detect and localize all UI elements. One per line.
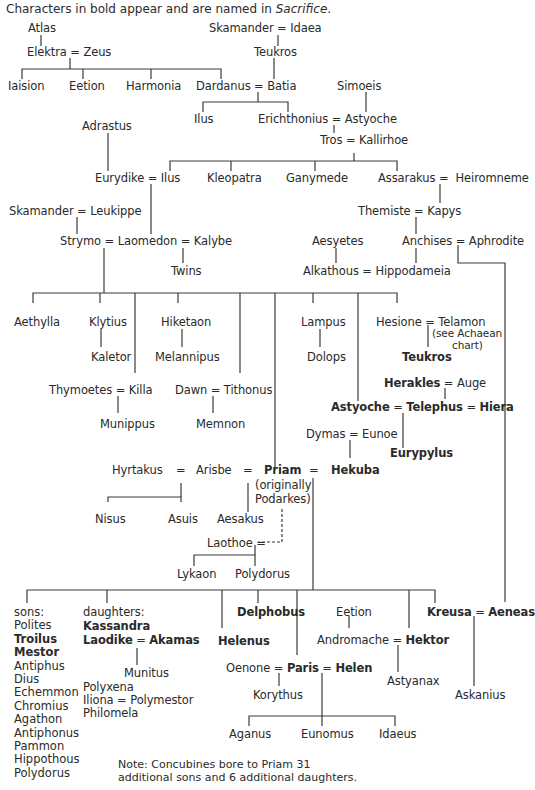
node-kaletor: Kaletor	[91, 351, 131, 364]
node-delphobus: Delphobus	[237, 606, 305, 619]
node-astyoche-telephus-hiera: Astyoche = Telephus = Hiera	[331, 401, 514, 414]
node-arisbe: Arisbe	[196, 464, 232, 477]
daughter-kassandra: Kassandra	[83, 620, 150, 633]
son-hippothous: Hippothous	[14, 753, 80, 766]
node-eurydike-ilus: Eurydike = Ilus	[95, 172, 180, 185]
node-dawn-tithonus: Dawn = Tithonus	[175, 384, 272, 397]
see-achaean-note-1: (see Achaean	[432, 327, 502, 339]
node-hiketaon: Hiketaon	[161, 316, 211, 329]
eq-arisbe-priam: =	[243, 464, 253, 477]
node-skamander-idaea: Skamander = Idaea	[209, 22, 322, 35]
node-hekuba: Hekuba	[331, 464, 380, 477]
priam-original-name-2: Podarkes)	[255, 493, 311, 506]
node-aganus: Aganus	[229, 728, 271, 741]
son-antiphonus: Antiphonus	[14, 727, 80, 740]
node-askanius: Askanius	[455, 689, 505, 702]
node-munippus: Munippus	[100, 418, 155, 431]
node-astyanax: Astyanax	[387, 675, 440, 688]
node-thymoetes-killa: Thymoetes = Killa	[49, 384, 152, 397]
node-herakles-auge: Herakles = Auge	[384, 377, 486, 390]
node-eurypylus: Eurypylus	[390, 447, 453, 460]
node-atlas: Atlas	[28, 22, 56, 35]
son-pammon: Pammon	[14, 740, 80, 753]
node-andromache-hektor: Andromache = Hektor	[317, 634, 449, 647]
node-harmonia: Harmonia	[126, 80, 181, 93]
son-mestor: Mestor	[14, 646, 80, 659]
node-dardanus-batia: Dardanus = Batia	[196, 80, 296, 93]
node-eetion: Eetion	[69, 80, 105, 93]
node-dymas-eunoe: Dymas = Eunoe	[306, 428, 398, 441]
node-asuis: Asuis	[168, 513, 198, 526]
node-dolops: Dolops	[307, 351, 346, 364]
daughters-heading: daughters:	[83, 606, 144, 619]
node-eunomus: Eunomus	[301, 728, 354, 741]
node-lampus: Lampus	[301, 316, 346, 329]
node-munitus: Munitus	[124, 667, 169, 680]
sons-list: sons: Polites Troilus Mestor Antiphus Di…	[14, 606, 80, 780]
node-iaision: Iaision	[8, 80, 44, 93]
node-polydorus-laothoe: Polydorus	[235, 568, 290, 581]
node-priam: Priam	[264, 464, 301, 477]
node-eetion-andromache-father: Eetion	[336, 606, 372, 619]
node-lykaon: Lykaon	[177, 568, 216, 581]
node-idaeus: Idaeus	[379, 728, 417, 741]
node-aesakus: Aesakus	[217, 513, 264, 526]
node-teukros: Teukros	[254, 46, 297, 59]
node-nisus: Nisus	[95, 513, 126, 526]
node-simoeis: Simoeis	[337, 80, 381, 93]
node-erichthonius-astyoche: Erichthonius = Astyoche	[258, 113, 397, 126]
node-anchises-aphrodite: Anchises = Aphrodite	[402, 235, 524, 248]
see-achaean-note-2: chart)	[452, 339, 483, 351]
node-laodike-akamas: Laodike = Akamas	[83, 634, 200, 647]
node-alkathous-hippodameia: Alkathous = Hippodameia	[303, 265, 451, 278]
node-assarakus-heiromneme: Assarakus = Heiromneme	[378, 172, 529, 185]
node-strymo-laomedon-kalybe: Strymo = Laomedon = Kalybe	[60, 235, 232, 248]
node-skamander-leukippe: Skamander = Leukippe	[9, 205, 142, 218]
node-korythus: Korythus	[253, 689, 303, 702]
node-kreusa-aeneas: Kreusa = Aeneas	[427, 606, 535, 619]
node-helenus: Helenus	[218, 635, 270, 648]
son-polydorus: Polydorus	[14, 767, 80, 780]
node-memnon: Memnon	[196, 418, 245, 431]
node-hyrtakus: Hyrtakus	[112, 464, 163, 477]
node-melannipus: Melannipus	[155, 351, 220, 364]
work-title: Sacrifice	[276, 2, 328, 16]
son-echemmon: Echemmon	[14, 686, 80, 699]
node-aesyetes: Aesyetes	[312, 235, 363, 248]
node-oenone-paris-helen: Oenone = Paris = Helen	[226, 662, 372, 675]
note-line-2: additional sons and 6 additional daughte…	[118, 771, 357, 784]
son-agathon: Agathon	[14, 713, 80, 726]
node-ilus: Ilus	[194, 113, 213, 126]
priam-original-name-1: (originally	[255, 479, 311, 492]
node-adrastus: Adrastus	[82, 120, 132, 133]
eq-hyrtakus-arisbe: =	[176, 464, 186, 477]
concubines-note: Note: Concubines bore to Priam 31 additi…	[118, 758, 357, 784]
node-klytius: Klytius	[89, 316, 127, 329]
note-line-1: Note: Concubines bore to Priam 31	[118, 758, 357, 771]
son-antiphus: Antiphus	[14, 660, 80, 673]
node-elektra-zeus: Elektra = Zeus	[27, 46, 111, 59]
son-dius: Dius	[14, 673, 80, 686]
node-teukros-son: Teukros	[402, 351, 452, 364]
node-themiste-kapys: Themiste = Kapys	[358, 205, 461, 218]
sons-heading: sons:	[14, 606, 80, 619]
chart-caption: Characters in bold appear and are named …	[6, 2, 331, 16]
son-polites: Polites	[14, 619, 80, 632]
node-ganymede: Ganymede	[286, 172, 348, 185]
node-aethylla: Aethylla	[14, 316, 60, 329]
eq-priam-hekuba: =	[309, 464, 319, 477]
node-tros-kallirhoe: Tros = Kallirhoe	[320, 134, 408, 147]
son-chromius: Chromius	[14, 700, 80, 713]
node-laothoe: Laothoe =	[207, 537, 266, 550]
node-twins: Twins	[171, 265, 202, 278]
son-troilus: Troilus	[14, 633, 80, 646]
node-kleopatra: Kleopatra	[207, 172, 262, 185]
daughter-philomela: Philomela	[83, 707, 138, 720]
